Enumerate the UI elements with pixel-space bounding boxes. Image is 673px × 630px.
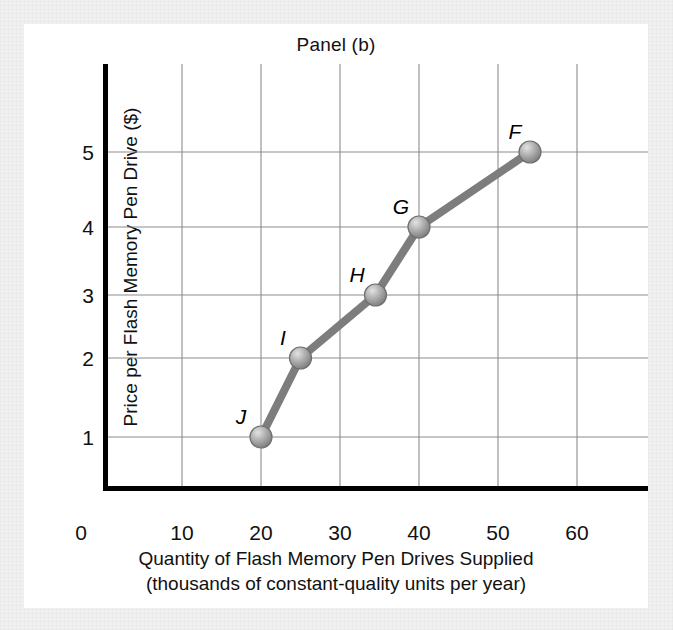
y-tick-label-3: 3 (82, 285, 94, 306)
point-label-F: F (509, 121, 522, 142)
point-label-G: G (393, 196, 409, 217)
chart-title: Panel (b) (24, 34, 648, 56)
x-axis-title-line-2: (thousands of constant-quality units per… (24, 571, 648, 596)
point-label-H: H (349, 264, 364, 285)
x-tick-label-20: 20 (249, 522, 272, 543)
x-tick-label-40: 40 (407, 522, 430, 543)
figure-page: Panel (b) Price per Flash Memory Pen Dri… (0, 0, 673, 630)
data-point-F (519, 141, 541, 163)
plot-area: Price per Flash Memory Pen Drive ($) (103, 64, 648, 512)
point-label-I: I (280, 327, 286, 348)
x-axis-title-line-1: Quantity of Flash Memory Pen Drives Supp… (139, 548, 534, 569)
data-point-J (250, 426, 272, 448)
y-tick-label-5: 5 (82, 142, 94, 163)
data-point-I (290, 347, 312, 369)
axes (103, 64, 648, 489)
point-label-J: J (236, 406, 247, 427)
x-tick-label-30: 30 (328, 522, 351, 543)
chart-canvas (103, 64, 648, 512)
x-tick-label-60: 60 (565, 522, 588, 543)
y-tick-label-1: 1 (82, 427, 94, 448)
x-tick-label-50: 50 (486, 522, 509, 543)
data-point-H (365, 284, 387, 306)
figure-panel: Panel (b) Price per Flash Memory Pen Dri… (24, 24, 648, 608)
y-tick-label-2: 2 (82, 348, 94, 369)
data-point-G (408, 216, 430, 238)
x-axis-title: Quantity of Flash Memory Pen Drives Supp… (24, 546, 648, 597)
x-tick-label-0: 0 (75, 522, 87, 543)
x-tick-label-10: 10 (170, 522, 193, 543)
y-tick-label-4: 4 (82, 217, 94, 238)
